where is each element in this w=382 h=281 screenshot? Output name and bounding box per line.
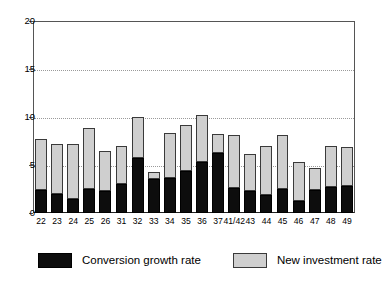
bar-group [148,21,160,213]
bar-group [260,21,272,213]
legend-item-conversion-growth-rate: Conversion growth rate [38,253,201,268]
bar-segment-conversion-growth-rate [83,189,95,213]
legend-label-conversion-growth-rate: Conversion growth rate [82,254,201,267]
bar-group [228,21,240,213]
bar-segment-conversion-growth-rate [260,195,272,213]
y-tick-label-10: 10 [9,112,35,122]
bar-group [293,21,305,213]
bar-segment-conversion-growth-rate [99,191,111,213]
bar-segment-conversion-growth-rate [164,178,176,213]
bar-segment-new-investment-rate [293,162,305,200]
bar-segment-new-investment-rate [341,147,353,186]
legend-swatch-icon-new-investment-rate [233,253,267,268]
bar-segment-new-investment-rate [116,146,128,184]
bar-group [67,21,79,213]
bar-segment-conversion-growth-rate [148,179,160,213]
bar-segment-new-investment-rate [244,154,256,190]
bar-group [341,21,353,213]
bar-group [164,21,176,213]
legend-label-new-investment-rate: New investment rate [277,254,382,267]
bar-segment-conversion-growth-rate [132,158,144,213]
y-tick-label-15: 15 [9,64,35,74]
bar-group [325,21,337,213]
bar-segment-conversion-growth-rate [325,187,337,213]
bar-segment-new-investment-rate [67,144,79,199]
x-tick-label: 49 [328,216,365,226]
legend: Conversion growth rate New investment ra… [38,249,358,271]
bar-group [244,21,256,213]
bar-segment-new-investment-rate [51,144,63,194]
bar-group [99,21,111,213]
bar-group [51,21,63,213]
bar-segment-new-investment-rate [148,172,160,180]
bar-segment-conversion-growth-rate [244,191,256,213]
bar-group [180,21,192,213]
legend-item-new-investment-rate: New investment rate [233,253,382,268]
bar-segment-new-investment-rate [196,115,208,162]
bar-segment-new-investment-rate [260,146,272,195]
bar-group [277,21,289,213]
bar-segment-conversion-growth-rate [228,188,240,213]
bar-segment-new-investment-rate [132,117,144,158]
legend-swatch-icon-conversion-growth-rate [38,253,72,268]
bar-segment-conversion-growth-rate [180,171,192,213]
bar-segment-new-investment-rate [309,168,321,190]
bar-group [212,21,224,213]
bar-segment-new-investment-rate [164,133,176,178]
bar-segment-conversion-growth-rate [277,189,289,213]
bar-group [116,21,128,213]
y-tick-label-20: 20 [9,16,35,26]
bar-segment-conversion-growth-rate [341,186,353,213]
bar-segment-new-investment-rate [180,125,192,171]
bar-segment-new-investment-rate [35,139,47,190]
bar-group [83,21,95,213]
bar-segment-conversion-growth-rate [293,201,305,213]
y-tick-label-5: 5 [9,160,35,170]
bar-segment-conversion-growth-rate [212,153,224,213]
bar-group [196,21,208,213]
bar-segment-new-investment-rate [228,135,240,188]
bar-segment-conversion-growth-rate [35,190,47,213]
bar-segment-new-investment-rate [277,135,289,189]
x-axis-labels: 22232425263132333435363741/4243444546474… [33,216,355,232]
bars-layer [33,21,355,213]
bar-segment-conversion-growth-rate [67,199,79,213]
bar-segment-conversion-growth-rate [309,190,321,213]
bar-group [309,21,321,213]
bar-group [132,21,144,213]
bar-segment-new-investment-rate [325,146,337,187]
bar-segment-new-investment-rate [212,134,224,152]
bar-segment-conversion-growth-rate [116,184,128,213]
bar-segment-new-investment-rate [99,151,111,191]
bar-group [35,21,47,213]
bar-segment-conversion-growth-rate [51,194,63,213]
bar-segment-new-investment-rate [83,128,95,189]
bar-segment-conversion-growth-rate [196,162,208,213]
